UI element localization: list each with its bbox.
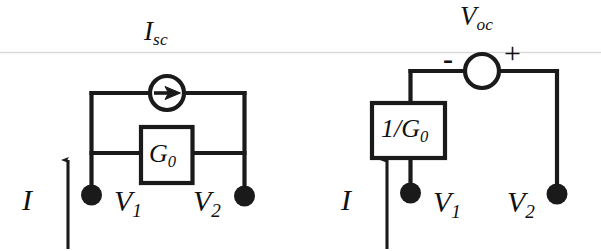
norton-input-current-label: I [22, 185, 32, 215]
v1-symbol: V [433, 185, 451, 218]
thevenin-terminal-dot-v1 [400, 183, 421, 204]
norton-conductance-label: G0 [149, 141, 176, 171]
thevenin-voltage-source-circle [465, 54, 499, 88]
one-over-g0-symbol: 1/G [381, 114, 420, 143]
thevenin-terminal-label-v1: V1 [433, 187, 461, 221]
thevenin-terminal-label-v2: V2 [507, 187, 535, 221]
norton-terminal-label-v2: V2 [193, 186, 221, 220]
norton-current-source-label: Isc [144, 18, 168, 48]
thevenin-plus-sign: + [504, 38, 521, 68]
thevenin-voltage-source-label: Voc [460, 3, 493, 33]
v1-subscript: 1 [451, 201, 461, 222]
norton-current-source-symbol [150, 76, 184, 110]
voc-subscript: oc [477, 15, 494, 34]
isc-subscript: sc [153, 30, 168, 49]
v2-symbol: V [193, 184, 211, 217]
v2-subscript: 2 [525, 201, 535, 222]
voc-symbol: V [460, 1, 477, 31]
g0-subscript: 0 [168, 152, 177, 171]
norton-terminal-dot-v1 [81, 185, 102, 206]
thevenin-input-current-label: I [341, 185, 351, 215]
thevenin-terminal-dot-v2 [547, 184, 568, 205]
norton-terminal-label-v1: V1 [114, 186, 142, 220]
v1-subscript: 1 [132, 200, 142, 221]
one-over-g0-subscript: 0 [420, 127, 429, 146]
circuit-diagram-figure: Isc G0 I V1 V2 Voc - + 1/G0 I V1 V2 [0, 0, 601, 251]
thevenin-resistance-label: 1/G0 [381, 116, 429, 146]
isc-symbol: I [144, 16, 153, 46]
v2-symbol: V [507, 185, 525, 218]
thevenin-minus-sign: - [443, 44, 453, 74]
v2-subscript: 2 [211, 200, 221, 221]
v1-symbol: V [114, 184, 132, 217]
g0-symbol: G [149, 139, 168, 168]
norton-terminal-dot-v2 [234, 186, 255, 207]
